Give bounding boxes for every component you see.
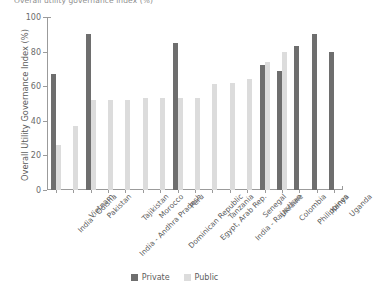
y-axis-tick-label: 80 xyxy=(31,47,41,56)
bar-public[interactable] xyxy=(108,100,113,190)
x-axis-tick-labels: India - OdishaVietnamPakistanIndia - And… xyxy=(47,192,343,258)
bar-group xyxy=(239,17,256,190)
y-axis-label: Overall Utility Governance Index (%) xyxy=(20,10,30,200)
bar-public[interactable] xyxy=(178,98,183,190)
bar-private[interactable] xyxy=(312,34,317,190)
y-axis-tick-label: 60 xyxy=(31,82,41,91)
bar-public[interactable] xyxy=(160,98,165,190)
bar-private[interactable] xyxy=(329,52,334,190)
bar-group xyxy=(117,17,134,190)
bar-group xyxy=(326,17,343,190)
bar-public[interactable] xyxy=(143,98,148,190)
bar-group xyxy=(273,17,290,190)
bar-group xyxy=(169,17,186,190)
bar-public[interactable] xyxy=(125,100,130,190)
bar-public[interactable] xyxy=(195,98,200,190)
bar-public[interactable] xyxy=(212,84,217,190)
x-axis-tick-label: Uganda xyxy=(348,192,374,219)
bar-group xyxy=(47,17,64,190)
y-axis-tick-label: 0 xyxy=(36,186,41,195)
bar-group xyxy=(99,17,116,190)
bar-group xyxy=(256,17,273,190)
legend-label-private: Private xyxy=(142,273,170,282)
bar-private[interactable] xyxy=(294,46,299,190)
bar-group xyxy=(308,17,325,190)
y-axis-tick-label: 100 xyxy=(26,13,41,22)
chart-title: Overall utility governance index (%) xyxy=(14,0,334,5)
bar-group xyxy=(291,17,308,190)
plot-area: 020406080100 xyxy=(47,17,343,190)
bar-group xyxy=(134,17,151,190)
legend-label-public: Public xyxy=(195,273,219,282)
bar-group xyxy=(204,17,221,190)
legend-item-private[interactable]: Private xyxy=(131,273,170,282)
bar-public[interactable] xyxy=(56,145,61,190)
bar-group xyxy=(221,17,238,190)
bar-group xyxy=(64,17,81,190)
bar-group xyxy=(186,17,203,190)
bar-public[interactable] xyxy=(282,52,287,190)
y-axis-tick xyxy=(43,190,47,191)
chart-legend: Private Public xyxy=(0,273,349,282)
bar-group xyxy=(82,17,99,190)
bar-public[interactable] xyxy=(230,83,235,190)
bar-public[interactable] xyxy=(73,126,78,190)
legend-item-public[interactable]: Public xyxy=(184,273,219,282)
bar-public[interactable] xyxy=(247,79,252,190)
legend-swatch-public-icon xyxy=(184,274,191,281)
bar-public[interactable] xyxy=(265,62,270,190)
bar-public[interactable] xyxy=(91,100,96,190)
y-axis-tick-label: 20 xyxy=(31,151,41,160)
legend-swatch-private-icon xyxy=(131,274,138,281)
bar-group xyxy=(151,17,168,190)
y-axis-tick-label: 40 xyxy=(31,116,41,125)
